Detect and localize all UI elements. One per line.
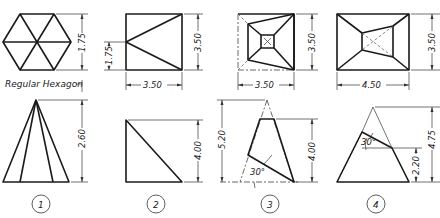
p3-apex-height-dim: 5.20	[217, 130, 227, 149]
p3-front-height-dim: 4.00	[307, 142, 317, 161]
drawing-sheet: 1.75 Regular Hexagon 2.60 1	[0, 0, 440, 218]
frustum-top-view-3	[238, 14, 294, 70]
p1-front-height-dim: 2.60	[77, 129, 87, 148]
square-top-view-2	[126, 14, 182, 70]
p4-cut-height-dim: 2.20	[411, 156, 421, 175]
pyramid-front-view-1	[3, 100, 69, 182]
problem-2-number: 2	[153, 200, 159, 210]
p4-angle-dim: 30°	[361, 137, 376, 147]
problem-3: 3.50 3.50 5.20 4.00 30°	[217, 14, 318, 213]
problem-3-number: 3	[267, 200, 273, 210]
problem-4-number: 4	[373, 200, 379, 210]
problem-4: 3.50 4.50 4.75 2.20 30°	[337, 14, 440, 213]
hexagon-top-view	[3, 14, 71, 70]
p3-angle-dim: 30°	[250, 167, 265, 177]
hexagon-label: Regular Hexagon	[5, 79, 83, 89]
p2-offset-dim: 1.75	[104, 46, 114, 65]
p2-front-height-dim: 4.00	[193, 141, 203, 160]
p3-top-height-dim: 3.50	[307, 33, 317, 52]
p4-top-width-dim: 4.50	[362, 80, 381, 90]
problem-1: 1.75 Regular Hexagon 2.60 1	[3, 14, 88, 213]
problem-2: 1.75 3.50 3.50 4.00 2	[104, 14, 203, 213]
p3-top-width-dim: 3.50	[255, 80, 274, 90]
p4-apex-height-dim: 4.75	[427, 130, 437, 149]
p4-top-height-dim: 3.50	[427, 33, 437, 52]
triangle-front-view-2	[126, 120, 182, 182]
p2-top-width-dim: 3.50	[143, 80, 162, 90]
rect-pyramid-top-view-4	[337, 14, 409, 70]
p2-top-height-dim: 3.50	[193, 33, 203, 52]
p1-top-height-dim: 1.75	[77, 33, 87, 52]
problem-1-number: 1	[38, 200, 44, 210]
